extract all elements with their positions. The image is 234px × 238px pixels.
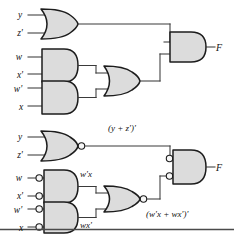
- input-label-wprime-lower: w': [14, 205, 23, 215]
- input-label-y-upper: y: [17, 10, 23, 20]
- output-label-F-upper: F: [215, 42, 223, 53]
- annotation-nor-middle: (w'x + wx')': [146, 209, 189, 219]
- annotation-wx-prime: wx': [80, 220, 93, 230]
- input-label-w-upper: w: [16, 52, 23, 62]
- input-label-w-lower: w: [16, 173, 23, 183]
- input-label-zprime-upper: z': [16, 28, 24, 38]
- input-label-x-lower: x: [18, 223, 24, 233]
- logic-circuit-figure: y z' w x' w' x F y z' w x' w' x F (y + z…: [0, 0, 234, 238]
- input-label-xprime-upper: x': [16, 70, 24, 80]
- input-label-y-lower: y: [17, 132, 23, 142]
- input-label-x-upper: x: [18, 102, 24, 112]
- annotation-w-prime-x: w'x: [80, 169, 92, 179]
- input-label-zprime-lower: z': [16, 150, 24, 160]
- input-label-wprime-upper: w': [14, 84, 23, 94]
- circuit-labels-svg: y z' w x' w' x F y z' w x' w' x F (y + z…: [0, 0, 234, 238]
- annotation-nor-top: (y + z')': [108, 123, 137, 133]
- output-label-F-lower: F: [215, 162, 223, 173]
- input-label-xprime-lower: x': [16, 191, 24, 201]
